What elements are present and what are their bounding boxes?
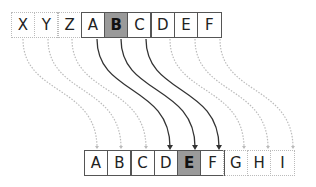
dotted-arrow	[220, 39, 293, 148]
top-cell: Z	[57, 12, 82, 38]
solid-arrow-b	[121, 39, 195, 147]
solid-arrow-a	[97, 39, 170, 147]
top-cell: E	[174, 12, 199, 38]
bottom-cell: B	[107, 150, 132, 176]
bottom-cell: D	[154, 150, 179, 176]
top-cell: C	[127, 12, 152, 38]
dotted-arrow	[170, 39, 244, 148]
bottom-cell: F	[200, 150, 225, 176]
bottom-cell-highlight: E	[177, 150, 202, 176]
bottom-cell: A	[84, 150, 109, 176]
dotted-arrow	[72, 39, 146, 148]
bottom-row: A B C D E F G H I	[85, 150, 295, 176]
bottom-cell: I	[270, 150, 295, 176]
solid-arrow-c	[146, 39, 219, 147]
top-row: X Y Z A B C D E F	[12, 12, 222, 38]
top-cell: Y	[34, 12, 59, 38]
dotted-arrow	[48, 39, 121, 148]
bottom-cell: G	[223, 150, 248, 176]
top-cell: D	[150, 12, 175, 38]
top-cell-highlight: B	[104, 12, 129, 38]
top-cell: F	[197, 12, 222, 38]
dotted-arrow	[23, 39, 97, 148]
top-cell: A	[81, 12, 106, 38]
top-cell: X	[11, 12, 36, 38]
dotted-arrow	[195, 39, 268, 148]
bottom-cell: H	[247, 150, 272, 176]
bottom-cell: C	[130, 150, 155, 176]
